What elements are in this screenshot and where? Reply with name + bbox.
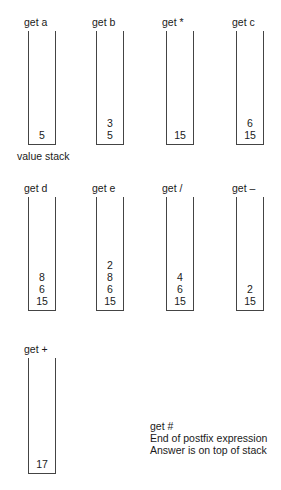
step-label: get / xyxy=(162,182,182,194)
end-note: get # End of postfix expression Answer i… xyxy=(150,420,267,456)
stack-step: get /4615 xyxy=(166,197,194,311)
stack-step: get e28615 xyxy=(96,197,124,311)
stack-step: get c615 xyxy=(236,31,264,145)
stack-step: get –215 xyxy=(236,197,264,311)
stack-value: 17 xyxy=(36,458,48,470)
stack-value: 15 xyxy=(244,295,256,307)
stack-box: 8615 xyxy=(28,197,56,311)
stack-step: get a5 xyxy=(28,31,56,145)
stack-value: 6 xyxy=(107,283,113,295)
stack-box: 15 xyxy=(166,31,194,145)
stack-box: 615 xyxy=(236,31,264,145)
step-label: get e xyxy=(92,182,115,194)
stack-step: get b35 xyxy=(96,31,124,145)
step-label: get + xyxy=(24,343,48,355)
stack-value: 8 xyxy=(107,271,113,283)
note-line-end: End of postfix expression xyxy=(150,432,267,444)
stack-box: 17 xyxy=(28,358,56,474)
stack-box: 4615 xyxy=(166,197,194,311)
step-label: get – xyxy=(232,182,255,194)
step-label: get * xyxy=(162,16,184,28)
value-stack-caption: value stack xyxy=(17,150,70,162)
step-label: get c xyxy=(232,16,255,28)
stack-box: 35 xyxy=(96,31,124,145)
note-line-answer: Answer is on top of stack xyxy=(150,444,267,456)
stack-box: 5 xyxy=(28,31,56,145)
step-label: get d xyxy=(24,182,47,194)
stack-value: 5 xyxy=(39,129,45,141)
stack-step: get *15 xyxy=(166,31,194,145)
stack-value: 15 xyxy=(104,295,116,307)
stack-value: 15 xyxy=(36,295,48,307)
stack-value: 8 xyxy=(39,271,45,283)
stack-step: get d8615 xyxy=(28,197,56,311)
stack-value: 15 xyxy=(244,129,256,141)
stack-value: 2 xyxy=(247,283,253,295)
stack-step: get +17 xyxy=(28,358,56,474)
stack-box: 215 xyxy=(236,197,264,311)
stack-value: 6 xyxy=(247,117,253,129)
stack-value: 15 xyxy=(174,295,186,307)
stack-value: 4 xyxy=(177,271,183,283)
step-label: get a xyxy=(24,16,47,28)
stack-value: 6 xyxy=(177,283,183,295)
stack-value: 3 xyxy=(107,117,113,129)
stack-value: 5 xyxy=(107,129,113,141)
step-label: get b xyxy=(92,16,115,28)
note-line-get-hash: get # xyxy=(150,420,267,432)
stack-value: 6 xyxy=(39,283,45,295)
stack-value: 15 xyxy=(174,129,186,141)
stack-value: 2 xyxy=(107,259,113,271)
stack-box: 28615 xyxy=(96,197,124,311)
